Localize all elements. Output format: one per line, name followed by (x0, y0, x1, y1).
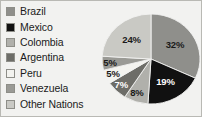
pie-label-venezuela: 5% (103, 57, 117, 68)
pie-label-mexico: 19% (156, 76, 175, 87)
pie-label-argentina: 7% (115, 79, 129, 90)
pie-label-other-nations: 24% (122, 34, 141, 45)
pie-svg: 32%19%8%7%5%5%24% (100, 7, 202, 112)
legend-label-mexico: Mexico (20, 22, 53, 33)
chart-legend: Brazil Mexico Colombia Argentina Peru Ve… (4, 4, 101, 114)
legend-swatch-brazil (6, 7, 15, 16)
legend-swatch-other-nations (6, 100, 15, 109)
legend-label-peru: Peru (20, 68, 42, 79)
pie-slices (102, 14, 200, 104)
legend-item-brazil[interactable]: Brazil (4, 4, 101, 19)
pie-label-brazil: 32% (166, 39, 185, 50)
legend-swatch-peru (6, 69, 15, 78)
legend-item-other-nations[interactable]: Other Nations (4, 96, 101, 111)
legend-item-venezuela[interactable]: Venezuela (4, 81, 101, 96)
legend-label-venezuela: Venezuela (20, 83, 68, 94)
pie-label-peru: 5% (106, 68, 120, 79)
legend-label-colombia: Colombia (20, 37, 64, 48)
legend-swatch-colombia (6, 38, 15, 47)
legend-label-other-nations: Other Nations (20, 99, 83, 110)
legend-item-mexico[interactable]: Mexico (4, 19, 101, 34)
legend-item-colombia[interactable]: Colombia (4, 35, 101, 50)
legend-swatch-mexico (6, 23, 15, 32)
pie-label-colombia: 8% (130, 87, 144, 98)
legend-item-peru[interactable]: Peru (4, 66, 101, 81)
pie-chart-figure: Brazil Mexico Colombia Argentina Peru Ve… (0, 0, 202, 117)
legend-label-brazil: Brazil (20, 6, 46, 17)
legend-swatch-argentina (6, 53, 15, 62)
legend-item-argentina[interactable]: Argentina (4, 50, 101, 65)
pie-plot-area: 32%19%8%7%5%5%24% (100, 7, 202, 112)
legend-label-argentina: Argentina (20, 52, 64, 63)
legend-swatch-venezuela (6, 84, 15, 93)
